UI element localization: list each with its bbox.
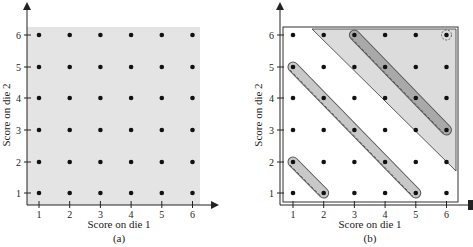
outcome-dot <box>414 160 419 165</box>
outcome-dot <box>129 191 134 196</box>
outcome-dot <box>37 160 42 165</box>
dice-figure: 123456123456 Score on die 1 (a) Score on… <box>0 0 473 247</box>
outcome-dot <box>444 128 449 133</box>
y-tick-label: 6 <box>16 30 21 41</box>
y-tick-label: 4 <box>16 93 21 104</box>
outcome-dot <box>383 160 388 165</box>
outcome-dot <box>67 33 72 38</box>
x-tick-label: 1 <box>37 209 42 220</box>
outcome-dot <box>67 191 72 196</box>
outcome-dot <box>37 191 42 196</box>
outcome-dot <box>383 65 388 70</box>
outcome-dot <box>67 160 72 165</box>
outcome-dot <box>129 128 134 133</box>
x-tick-label: 5 <box>413 209 418 220</box>
outcome-dot <box>321 128 326 133</box>
outcome-dot <box>190 128 195 133</box>
outcome-dot <box>321 65 326 70</box>
outcome-dot <box>383 96 388 101</box>
outcome-dot <box>190 160 195 165</box>
outcome-dot <box>291 128 296 133</box>
panel-b: 123456123456 Score on die 1 (b) Score on… <box>252 2 473 245</box>
outcome-dot <box>291 160 296 165</box>
outcome-dot <box>352 160 357 165</box>
outcome-dot <box>352 191 357 196</box>
sample-space-shading <box>27 27 200 205</box>
outcome-dot <box>414 128 419 133</box>
y-tick-label: 3 <box>269 125 274 136</box>
outcome-dot <box>444 65 449 70</box>
outcome-dot <box>383 33 388 38</box>
outcome-dot <box>321 160 326 165</box>
panel-caption: (b) <box>364 232 377 245</box>
outcome-dot <box>321 191 326 196</box>
outcome-dot <box>67 128 72 133</box>
outcome-dot <box>190 96 195 101</box>
outcome-dot <box>444 33 449 38</box>
outcome-dot <box>160 96 165 101</box>
y-axis-arrow-icon <box>276 2 284 10</box>
outcome-dot <box>37 128 42 133</box>
x-axis-arrow-icon <box>211 201 219 209</box>
outcome-dot <box>291 65 296 70</box>
panel-a: 123456123456 Score on die 1 (a) Score on… <box>0 2 219 245</box>
y-tick-label: 1 <box>16 188 21 199</box>
outcome-dot <box>160 128 165 133</box>
x-tick-label: 5 <box>159 209 164 220</box>
outcome-dot <box>321 33 326 38</box>
outcome-dot <box>444 160 449 165</box>
outcome-dot <box>414 96 419 101</box>
outcome-dot <box>190 65 195 70</box>
x-tick-label: 2 <box>321 209 326 220</box>
y-axis-label: Score on die 2 <box>252 83 264 146</box>
outcome-dot <box>129 160 134 165</box>
outcome-dot <box>98 128 103 133</box>
outcome-dot <box>444 96 449 101</box>
outcome-dot <box>37 96 42 101</box>
y-axis-label: Score on die 2 <box>0 83 12 146</box>
outcome-dot <box>98 96 103 101</box>
outcome-dot <box>98 33 103 38</box>
x-axis-arrow-icon <box>468 200 473 210</box>
x-tick-label: 6 <box>444 209 449 220</box>
outcome-dot <box>352 65 357 70</box>
outcome-dot <box>352 96 357 101</box>
y-tick-label: 1 <box>269 188 274 199</box>
outcome-dot <box>98 65 103 70</box>
sum-3-band <box>293 162 324 193</box>
outcome-dot <box>321 96 326 101</box>
outcome-dot <box>444 191 449 196</box>
outcome-dot <box>98 191 103 196</box>
outcome-dot <box>352 33 357 38</box>
outcome-dot <box>160 160 165 165</box>
outcome-dot <box>190 33 195 38</box>
outcome-dot <box>67 96 72 101</box>
outcome-dot <box>190 191 195 196</box>
outcome-dot <box>98 160 103 165</box>
outcome-dot <box>160 191 165 196</box>
y-axis-arrow-icon <box>23 2 31 10</box>
outcome-dot <box>352 128 357 133</box>
outcome-dot <box>37 65 42 70</box>
x-tick-label: 1 <box>291 209 296 220</box>
x-axis-label: Score on die 1 <box>87 218 150 230</box>
outcome-dot <box>291 33 296 38</box>
outcome-dot <box>160 65 165 70</box>
outcome-dot <box>383 128 388 133</box>
outcome-dot <box>291 96 296 101</box>
outcome-dot <box>129 96 134 101</box>
outcome-dot <box>414 191 419 196</box>
y-tick-label: 4 <box>269 93 274 104</box>
x-axis-label: Score on die 1 <box>338 218 401 230</box>
outcome-dot <box>414 65 419 70</box>
outcome-dot <box>129 65 134 70</box>
panel-caption: (a) <box>113 232 126 245</box>
y-tick-label: 2 <box>16 157 21 168</box>
outcome-dot <box>160 33 165 38</box>
outcome-dot <box>67 65 72 70</box>
x-tick-label: 2 <box>67 209 72 220</box>
y-tick-label: 5 <box>16 62 21 73</box>
outcome-dot <box>291 191 296 196</box>
y-tick-label: 3 <box>16 125 21 136</box>
y-tick-label: 2 <box>269 157 274 168</box>
